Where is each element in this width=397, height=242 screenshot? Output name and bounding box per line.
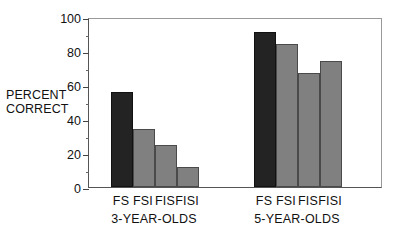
bar-chart: PERCENT CORRECT 020406080100 FSFSIFISFIS… xyxy=(0,0,397,242)
bar-5-year-olds-fisi xyxy=(320,61,342,187)
x-tick-label-fsi: FSI xyxy=(276,194,296,208)
y-tick-mark xyxy=(83,189,89,190)
bar-5-year-olds-fis xyxy=(298,73,320,187)
bar-3-year-olds-fis xyxy=(155,145,177,188)
bar-5-year-olds-fs xyxy=(254,32,276,187)
x-tick-label-fis: FIS xyxy=(155,194,175,208)
bar-3-year-olds-fs xyxy=(111,92,133,187)
x-tick-label-fsi: FSI xyxy=(133,194,153,208)
bar-3-year-olds-fsi xyxy=(133,129,155,187)
y-tick-label: 60 xyxy=(67,80,81,94)
group-label-3-year-olds: 3-YEAR-OLDS xyxy=(94,212,214,226)
bar-5-year-olds-fsi xyxy=(276,44,298,187)
y-tick-label: 80 xyxy=(67,46,81,60)
group-label-5-year-olds: 5-YEAR-OLDS xyxy=(237,212,357,226)
y-tick-label: 40 xyxy=(67,114,81,128)
bars-layer xyxy=(89,19,381,187)
y-tick-label: 0 xyxy=(74,182,81,196)
plot-area: 020406080100 xyxy=(88,18,382,188)
x-tick-label-fs: FS xyxy=(256,194,272,208)
x-tick-label-fs: FS xyxy=(113,194,129,208)
y-tick-label: 100 xyxy=(60,12,81,26)
y-tick-label: 20 xyxy=(67,148,81,162)
x-tick-label-fis: FIS xyxy=(298,194,318,208)
x-tick-label-fisi: FISI xyxy=(175,194,199,208)
x-tick-label-fisi: FISI xyxy=(318,194,342,208)
bar-3-year-olds-fisi xyxy=(177,167,199,187)
